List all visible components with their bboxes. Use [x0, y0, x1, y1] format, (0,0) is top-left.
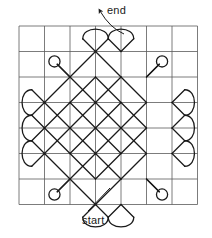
weave-diagram-svg: [0, 0, 212, 238]
figure-root: end start: [0, 0, 212, 238]
end-label: end: [107, 4, 126, 16]
start-label: start: [82, 214, 104, 226]
